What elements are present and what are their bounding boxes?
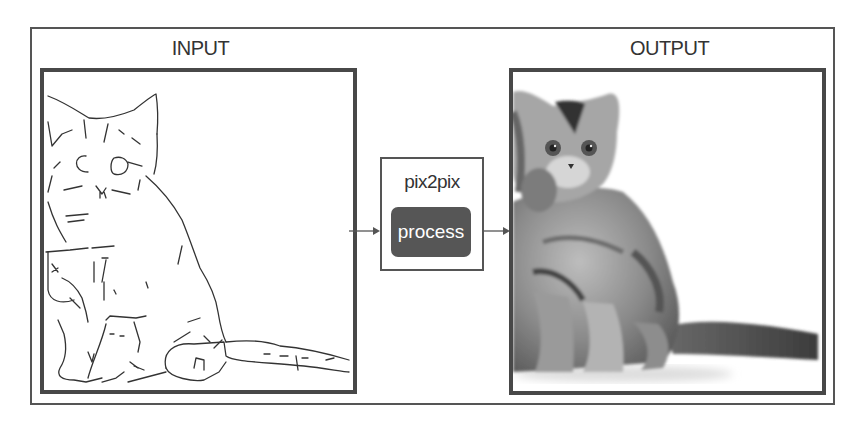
process-button[interactable]: process [391, 207, 471, 257]
input-canvas[interactable] [40, 68, 357, 394]
cat-photo-image [513, 72, 822, 391]
output-canvas [509, 68, 826, 395]
output-label: OUTPUT [509, 37, 830, 60]
model-name: pix2pix [382, 171, 482, 193]
cat-sketch-image [44, 72, 353, 390]
pix2pix-model-box: pix2pix process [380, 157, 484, 271]
arrow-right-icon [482, 225, 512, 237]
arrow-right-icon [349, 225, 381, 237]
input-label: INPUT [40, 37, 361, 60]
